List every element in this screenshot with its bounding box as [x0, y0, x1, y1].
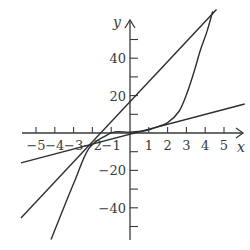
- y-tick-label: 20: [109, 89, 126, 104]
- x-tick-label: 2: [163, 138, 171, 153]
- plotted-series: [21, 10, 245, 240]
- x-tick-label: 1: [145, 138, 153, 153]
- x-tick-labels: −5−4−3−2−112345: [26, 138, 228, 153]
- x-tick-label: −4: [45, 138, 64, 153]
- x-tick-label: 3: [182, 138, 190, 153]
- function-graph: −5−4−3−2−112345 4020−20−40 x y: [0, 0, 250, 250]
- y-tick-label: 40: [109, 51, 126, 66]
- cubic-curve: [51, 11, 213, 239]
- y-tick-label: −40: [99, 201, 126, 216]
- y-axis-label: y: [112, 14, 122, 30]
- x-axis-label: x: [237, 139, 245, 155]
- x-tick-label: 5: [220, 138, 228, 153]
- x-tick-label: −5: [26, 138, 45, 153]
- x-tick-label: 4: [201, 138, 209, 153]
- y-tick-label: −20: [99, 163, 126, 178]
- steep-line: [21, 10, 217, 219]
